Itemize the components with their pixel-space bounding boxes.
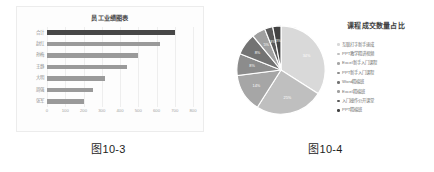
- bar-chart-category-label: 周强: [36, 88, 44, 92]
- pie-legend-label: 互联打字新手速成: [342, 43, 374, 47]
- bar-chart-x-tick: 400: [117, 108, 124, 113]
- bar-chart-row: 张军: [47, 96, 84, 107]
- pie-legend-item: Excel新手入门课程: [337, 59, 421, 68]
- bar-chart-bar: [47, 53, 138, 58]
- pie-legend-swatch: [337, 53, 340, 56]
- pie-legend-label: Word精编班: [342, 80, 364, 84]
- bar-chart-row: 王静: [47, 61, 127, 72]
- bar-chart-bar: [47, 88, 93, 93]
- bar-chart-bar: [47, 30, 175, 35]
- bar-chart-category-label: 大明: [36, 76, 44, 80]
- pie-chart-plot-area: 34%25%14%8%8%5%3%3%: [233, 22, 329, 118]
- pie-legend-item: PPT新手入门课程: [337, 68, 421, 77]
- figure-caption-2: 图10-4: [217, 140, 434, 156]
- bar-chart-category-label: 赵红: [36, 42, 44, 46]
- pie-legend-swatch: [337, 90, 340, 93]
- figure-pie-chart: 课程成交数量占比 34%25%14%8%8%5%3%3% 互联打字新手速成PPT…: [217, 0, 434, 172]
- bar-chart-x-tick: 0: [46, 108, 48, 113]
- bar-chart-category-label: 合计: [36, 31, 44, 35]
- bar-chart-bar: [47, 76, 105, 81]
- pie-legend-item: 互联打字新手速成: [337, 40, 421, 49]
- bar-chart-bar: [47, 99, 84, 104]
- bar-chart-row: 合计: [47, 27, 175, 38]
- bar-chart-gridline: [193, 27, 194, 107]
- pie-legend-label: Excel新手入门课程: [342, 61, 377, 65]
- bar-chart-x-tick: 600: [153, 108, 160, 113]
- bar-chart-gridline: [175, 27, 176, 107]
- pie-legend-label: PPT精编班: [342, 108, 362, 112]
- bar-chart-category-label: 孙梅: [36, 53, 44, 57]
- pie-legend-swatch: [337, 62, 340, 65]
- bar-chart-x-tick: 800: [190, 108, 197, 113]
- bar-chart-row: 孙梅: [47, 50, 138, 61]
- bar-chart-row: 周强: [47, 84, 93, 95]
- pie-slice-percent-label: 34%: [303, 54, 311, 58]
- bar-chart-panel: 员工业绩图表 合计赵红孙梅王静大明周强张军 010020030040050060…: [16, 6, 204, 132]
- pie-legend-item: 入门操作公开课堂: [337, 96, 421, 105]
- figure-sheet: 员工业绩图表 合计赵红孙梅王静大明周强张军 010020030040050060…: [0, 0, 434, 172]
- bar-chart-bar: [47, 42, 160, 47]
- bar-chart-bar: [47, 65, 127, 70]
- pie-legend-label: 入门操作公开课堂: [342, 99, 374, 103]
- pie-legend-item: PPT教学精讲视频: [337, 49, 421, 58]
- bar-chart-plot-area: 合计赵红孙梅王静大明周强张军: [47, 27, 193, 107]
- bar-chart-row: 赵红: [47, 38, 160, 49]
- pie-slice-percent-label: 25%: [284, 96, 292, 100]
- pie-legend-swatch: [337, 81, 340, 84]
- bar-chart-row: 大明: [47, 73, 105, 84]
- bar-chart-x-tick: 500: [135, 108, 142, 113]
- bar-chart-x-tick: 100: [62, 108, 69, 113]
- pie-legend-swatch: [337, 109, 340, 112]
- pie-slice-percent-label: 14%: [253, 84, 261, 88]
- bar-chart-x-axis: 0100200300400500600700800: [47, 108, 193, 118]
- bar-chart-x-tick: 700: [171, 108, 178, 113]
- pie-slice-percent-label: 5%: [263, 43, 269, 47]
- bar-chart-title: 员工业绩图表: [17, 13, 203, 22]
- pie-chart-panel: 课程成交数量占比 34%25%14%8%8%5%3%3% 互联打字新手速成PPT…: [229, 6, 422, 130]
- pie-chart-title: 课程成交数量占比: [333, 20, 419, 30]
- figure-caption-1: 图10-3: [0, 140, 217, 156]
- pie-legend-label: PPT教学精讲视频: [342, 52, 374, 56]
- pie-legend-label: PPT新手入门课程: [342, 71, 374, 75]
- pie-legend-label: Excel精编班: [342, 90, 365, 94]
- bar-chart-category-label: 王静: [36, 65, 44, 69]
- bar-chart-category-label: 张军: [36, 99, 44, 103]
- pie-legend-item: Excel精编班: [337, 87, 421, 96]
- pie-svg: 34%25%14%8%8%5%3%3%: [233, 22, 329, 118]
- pie-slice-percent-label: 8%: [255, 51, 261, 55]
- bar-chart-x-tick: 300: [98, 108, 105, 113]
- pie-chart-legend: 互联打字新手速成PPT教学精讲视频Excel新手入门课程PPT新手入门课程Wor…: [337, 40, 421, 115]
- pie-legend-item: PPT精编班: [337, 106, 421, 115]
- pie-legend-swatch: [337, 72, 340, 75]
- bar-chart-x-tick: 200: [80, 108, 87, 113]
- pie-legend-item: Word精编班: [337, 78, 421, 87]
- figure-bar-chart: 员工业绩图表 合计赵红孙梅王静大明周强张军 010020030040050060…: [0, 0, 217, 172]
- pie-slice-percent-label: 8%: [249, 64, 255, 68]
- pie-legend-swatch: [337, 100, 340, 103]
- pie-slice-percent-label: 3%: [275, 39, 281, 43]
- pie-legend-swatch: [337, 43, 340, 46]
